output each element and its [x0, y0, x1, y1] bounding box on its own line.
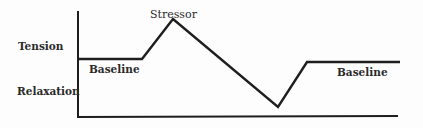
diagram-plot: [0, 0, 423, 128]
stress-response-diagram: Tension Relaxation Stressor Baseline Bas…: [0, 0, 423, 128]
y-label-relaxation: Relaxation: [17, 86, 80, 97]
y-label-tension: Tension: [18, 41, 63, 52]
baseline-left-label: Baseline: [89, 64, 140, 75]
baseline-right-label: Baseline: [337, 67, 388, 78]
x-axis: [77, 116, 398, 117]
stressor-label: Stressor: [150, 9, 197, 20]
